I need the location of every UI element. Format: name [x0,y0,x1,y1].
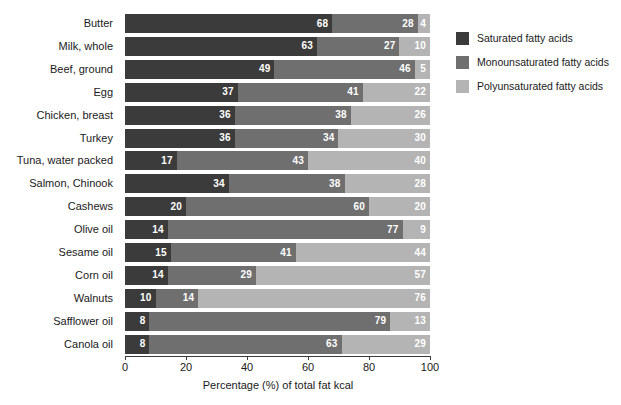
bar-segment-value: 40 [414,156,430,166]
x-tick-label: 0 [105,361,145,373]
bar-segment-value: 37 [222,87,238,97]
bar-segment: 36 [125,129,235,148]
category-label: Salmon, Chinook [0,174,113,193]
bar-row: 632710 [125,37,430,56]
bar-segment-value: 22 [414,87,430,97]
bar-segment: 20 [369,197,430,216]
bar-segment: 37 [125,83,238,102]
bar-segment-value: 60 [353,202,369,212]
bar-segment: 15 [125,243,171,262]
bar-segment: 44 [296,243,430,262]
x-tick-mark [247,356,248,360]
x-tick-label: 60 [288,361,328,373]
bar-segment-value: 17 [161,156,177,166]
bar-segment: 41 [238,83,363,102]
category-label: Butter [0,14,113,33]
bar-segment: 28 [345,174,430,193]
bar-row: 363430 [125,129,430,148]
bar-segment: 14 [156,289,199,308]
bar-segment: 79 [149,312,390,331]
bar-segment: 38 [235,106,351,125]
bar-segment: 77 [168,220,403,239]
bar-segment: 30 [338,129,430,148]
category-label: Corn oil [0,266,113,285]
bar-row: 154144 [125,243,430,262]
bar-segment: 10 [125,289,156,308]
bar-row: 142957 [125,266,430,285]
bar-segment-value: 10 [414,41,430,51]
x-tick-mark [369,356,370,360]
bar-segment-value: 28 [414,179,430,189]
bar-segment-value: 41 [347,87,363,97]
bar-segment: 22 [363,83,430,102]
bar-segment: 34 [125,174,229,193]
bar-segment-value: 10 [140,293,156,303]
x-tick-label: 40 [227,361,267,373]
legend-item: Polyunsaturated fatty acids [456,74,621,98]
bar-segment-value: 63 [326,339,342,349]
bar-segment: 34 [235,129,339,148]
legend-swatch [456,32,469,45]
bar-segment-value: 20 [170,202,186,212]
bar-segment: 38 [229,174,345,193]
bar-segment: 28 [332,14,417,33]
legend-label: Monounsaturated fatty acids [477,57,609,68]
bar-segment: 76 [198,289,430,308]
bar-segment: 49 [125,60,274,79]
bar-segment-value: 14 [152,270,168,280]
x-axis-line [125,356,431,357]
bar-segment-value: 27 [384,41,400,51]
x-tick-label: 20 [166,361,206,373]
category-label: Sesame oil [0,243,113,262]
bar-segment-value: 77 [387,225,403,235]
bar-segment-value: 38 [329,179,345,189]
x-tick-label: 80 [349,361,389,373]
bar-segment: 4 [418,14,430,33]
bar-row: 49465 [125,60,430,79]
bar-segment-value: 15 [155,248,171,258]
bar-segment-value: 29 [241,270,257,280]
x-tick-mark [308,356,309,360]
bar-segment-value: 8 [140,339,150,349]
legend-swatch [456,80,469,93]
bar-segment: 41 [171,243,296,262]
bar-segment-value: 34 [323,133,339,143]
bar-segment-value: 34 [213,179,229,189]
bar-segment: 14 [125,266,168,285]
plot-area: 6828463271049465374122363826363430174340… [125,12,430,356]
bar-row: 14779 [125,220,430,239]
bar-row: 343828 [125,174,430,193]
bar-segment: 20 [125,197,186,216]
bar-segment-value: 28 [402,19,418,29]
bar-segment-value: 30 [414,133,430,143]
bar-segment-value: 26 [414,110,430,120]
bar-segment-value: 76 [414,293,430,303]
bar-segment: 36 [125,106,235,125]
category-label: Egg [0,83,113,102]
legend: Saturated fatty acidsMonounsaturated fat… [456,26,621,98]
bar-row: 86329 [125,335,430,354]
bar-segment-value: 36 [219,110,235,120]
bar-segment: 8 [125,335,149,354]
bar-segment: 5 [415,60,430,79]
bar-segment: 57 [256,266,430,285]
category-label: Walnuts [0,289,113,308]
bar-segment: 43 [177,151,308,170]
category-label: Safflower oil [0,312,113,331]
bar-segment: 9 [403,220,430,239]
legend-label: Saturated fatty acids [477,33,573,44]
bar-segment-value: 14 [183,293,199,303]
bar-segment: 17 [125,151,177,170]
bar-segment-value: 63 [302,41,318,51]
bar-segment: 27 [317,37,399,56]
bar-segment: 63 [149,335,341,354]
x-tick-label: 100 [410,361,450,373]
x-tick-mark [186,356,187,360]
bar-segment: 46 [274,60,414,79]
category-label: Tuna, water packed [0,151,113,170]
bar-segment-value: 68 [317,19,333,29]
bar-row: 374122 [125,83,430,102]
bar-segment-value: 9 [420,225,430,235]
x-tick-mark [430,356,431,360]
category-label: Olive oil [0,220,113,239]
